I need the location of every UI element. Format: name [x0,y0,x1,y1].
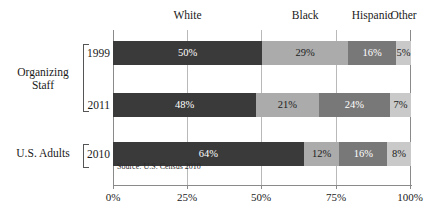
x-tick-0 [113,185,114,189]
source-note: Source: U.S. Census 2010 [117,163,201,171]
year-label-1999: 1999 [76,48,110,60]
group-label-line-1: U.S. Adults [4,147,82,160]
group-label-line-1: Organizing [6,66,80,79]
x-tick-25 [187,185,188,189]
group-label-line-2: Staff [6,79,80,92]
plot-area: 50% 29% 16% 5% 48% 21% 24% 7% 64% 12% 16… [113,30,411,185]
group-label-us-adults: U.S. Adults [4,147,82,160]
x-axis-label-75: 75% [326,192,346,203]
x-tick-75 [336,185,337,189]
year-label-2010: 2010 [76,149,110,161]
x-tick-50 [261,185,262,189]
stacked-bar-chart: White Black Hispanic Other Organizing St… [0,0,436,214]
bar-segment-black[interactable]: 29% [262,41,348,65]
category-header-other: Other [390,10,416,22]
bar-segment-hispanic[interactable]: 16% [348,41,396,65]
year-label-2011: 2011 [76,100,110,112]
x-axis-label-0: 0% [106,192,121,203]
category-header-hispanic: Hispanic [352,10,393,22]
bar-segment-black[interactable]: 21% [256,93,319,117]
bar-segment-white[interactable]: 48% [113,93,256,117]
x-axis-label-25: 25% [177,192,197,203]
category-header-white: White [173,10,201,22]
table-row: 48% 21% 24% 7% [113,93,411,117]
bar-segment-other[interactable]: 5% [396,41,411,65]
bar-segment-hispanic[interactable]: 24% [319,93,391,117]
table-row: 50% 29% 16% 5% [113,41,411,65]
bar-segment-hispanic[interactable]: 16% [339,142,387,166]
group-label-organizing-staff: Organizing Staff [6,66,80,92]
bar-segment-black[interactable]: 12% [304,142,340,166]
x-tick-100 [410,185,411,189]
bar-segment-white[interactable]: 50% [113,41,262,65]
x-axis-label-100: 100% [397,192,423,203]
bar-segment-other[interactable]: 8% [387,142,411,166]
x-axis-line [113,185,412,186]
bar-segment-other[interactable]: 7% [390,93,411,117]
category-header-black: Black [292,10,319,22]
x-axis-label-50: 50% [251,192,271,203]
